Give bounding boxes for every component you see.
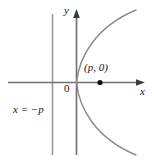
y-axis-label: y <box>64 5 69 16</box>
x-axis-label: x <box>140 86 145 97</box>
focus-point-label: (p, 0) <box>84 62 108 73</box>
focus-point-dot <box>97 80 102 85</box>
origin-label: 0 <box>64 83 70 94</box>
y-axis-arrowhead <box>73 9 80 18</box>
parabola-lower-branch <box>77 83 137 156</box>
figure-canvas <box>0 0 154 161</box>
directrix-label: x = −p <box>13 104 44 115</box>
parabola-figure: y x 0 (p, 0) x = −p <box>0 0 154 161</box>
